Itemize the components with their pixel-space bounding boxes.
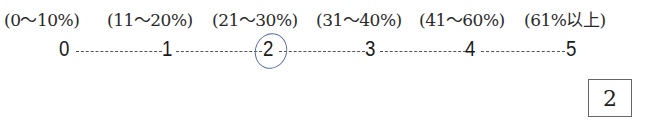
range-label-5: (61%以上) xyxy=(524,6,606,31)
scale-divider xyxy=(279,51,365,52)
scale-option-0[interactable]: 0 xyxy=(59,36,69,62)
scale-option-1[interactable]: 1 xyxy=(162,36,172,62)
scale-divider xyxy=(481,51,565,52)
range-label-1: (11～20%) xyxy=(107,6,193,31)
rating-scale: 0 1 2 3 4 5 xyxy=(0,36,655,68)
percentage-range-labels: (0～10%) (11～20%) (21～30%) (31～40%) (41～6… xyxy=(0,6,655,32)
range-label-3: (31～40%) xyxy=(316,6,402,31)
scale-divider xyxy=(380,51,466,52)
scale-divider xyxy=(76,51,162,52)
scale-option-3[interactable]: 3 xyxy=(365,36,375,62)
answer-box: 2 xyxy=(588,79,632,117)
range-label-4: (41～60%) xyxy=(419,6,505,31)
scale-divider xyxy=(176,51,262,52)
scale-option-4[interactable]: 4 xyxy=(465,36,475,62)
range-label-0: (0～10%) xyxy=(4,6,79,31)
scale-option-5[interactable]: 5 xyxy=(566,36,576,62)
range-label-2: (21～30%) xyxy=(212,6,298,31)
